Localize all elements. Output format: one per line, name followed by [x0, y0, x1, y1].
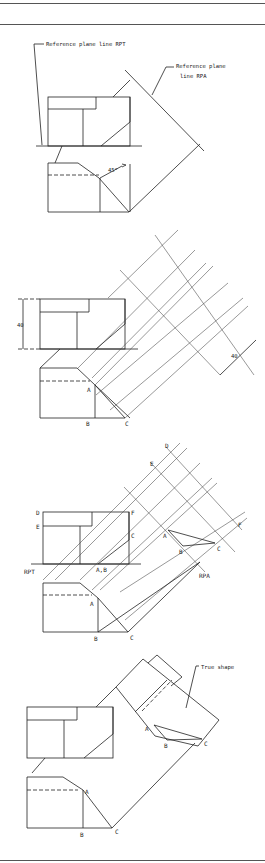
svg-text:B: B: [86, 420, 90, 427]
rpa-line: [125, 70, 204, 151]
angle-label: 45°: [108, 167, 118, 173]
svg-text:C: C: [115, 828, 119, 835]
svg-text:C: C: [217, 545, 221, 552]
aux-view-outline: [116, 659, 219, 746]
svg-text:B: B: [80, 831, 84, 838]
svg-text:C: C: [204, 740, 208, 747]
svg-text:F: F: [131, 509, 135, 516]
svg-text:F: F: [238, 521, 242, 528]
panel-3: D E F C RPT A,B D E F A B C RPA: [24, 442, 247, 642]
svg-text:A: A: [145, 725, 149, 732]
svg-text:A: A: [163, 532, 167, 539]
svg-text:A,B: A,B: [96, 566, 107, 573]
rpt-label: Reference plane line RPT: [46, 41, 126, 48]
top-view-step: [48, 97, 96, 109]
depth-dim-label: 40: [231, 353, 238, 359]
height-dim-label: 40: [17, 322, 24, 328]
top-view-outline: [48, 97, 130, 146]
svg-text:E: E: [36, 523, 40, 530]
svg-text:A: A: [85, 788, 89, 795]
svg-text:B: B: [164, 742, 168, 749]
panel-1: Reference plane line RPT Reference plane…: [34, 41, 226, 212]
svg-text:RPT: RPT: [24, 568, 35, 575]
svg-text:D: D: [36, 509, 40, 516]
panel-2: 40 A B C 40: [17, 230, 256, 427]
svg-text:RPA: RPA: [199, 572, 210, 579]
svg-text:B: B: [94, 635, 98, 642]
svg-text:A: A: [87, 386, 91, 393]
true-shape-leader: [186, 666, 199, 708]
svg-text:E: E: [150, 460, 154, 467]
svg-text:B: B: [179, 548, 183, 555]
panel-4: True shape A B C A B C: [27, 655, 234, 838]
rpa-label-1: Reference plane: [176, 63, 226, 70]
svg-text:D: D: [165, 442, 169, 449]
rpa-label-2: line RPA: [180, 73, 207, 79]
true-shape-label: True shape: [201, 664, 234, 671]
rpa-leader: [152, 67, 174, 95]
top-view-chamfer: [101, 97, 130, 146]
section-triangle: [168, 530, 215, 546]
svg-text:C: C: [125, 420, 129, 427]
svg-text:C: C: [131, 532, 135, 539]
svg-text:C: C: [130, 634, 134, 641]
svg-text:A: A: [90, 600, 94, 607]
rpt-leader: [34, 44, 44, 145]
auxiliary-view-drawing: Reference plane line RPT Reference plane…: [0, 0, 265, 863]
